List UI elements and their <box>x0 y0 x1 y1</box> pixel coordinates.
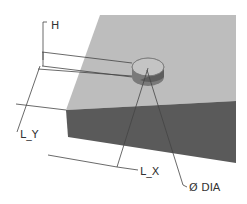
height-label: H <box>51 19 59 32</box>
dimension-diagram: H L_Y L_X Ø DIA <box>0 0 247 204</box>
length-y-label: L_Y <box>20 128 39 141</box>
length-x-label: L_X <box>140 165 160 178</box>
diameter-label: Ø DIA <box>189 181 221 194</box>
plate-side-face <box>66 101 236 163</box>
